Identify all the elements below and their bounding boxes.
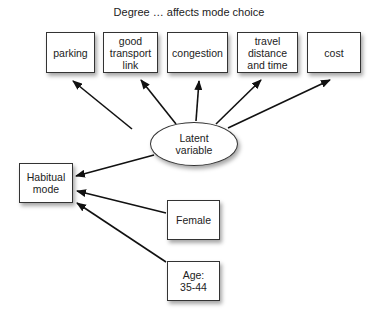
edge-latent-transport bbox=[141, 80, 176, 124]
node-cost: cost bbox=[307, 32, 361, 73]
node-age: Age: 35-44 bbox=[167, 261, 220, 301]
node-good-transport-link: good transport link bbox=[103, 32, 158, 73]
node-parking: parking bbox=[46, 32, 95, 73]
edge-latent-travel bbox=[216, 80, 261, 124]
node-travel-distance-time: travel distance and time bbox=[237, 32, 298, 73]
edge-age-habitual bbox=[77, 203, 166, 262]
node-latent-variable: Latent variable bbox=[150, 122, 238, 166]
edge-latent-cost bbox=[228, 80, 330, 128]
edge-latent-congestion bbox=[196, 81, 199, 121]
edge-latent-parking bbox=[73, 81, 132, 129]
edge-female-habitual bbox=[77, 191, 166, 213]
node-habitual-mode: Habitual mode bbox=[19, 163, 73, 203]
node-congestion: congestion bbox=[167, 32, 228, 73]
node-female: Female bbox=[167, 200, 220, 240]
edge-latent-habitual bbox=[76, 155, 154, 176]
